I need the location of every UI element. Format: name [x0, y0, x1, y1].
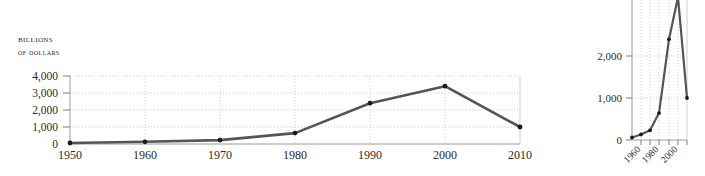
- thumbnail-y-ticks: [626, 56, 632, 140]
- y-tick-label: 1,000: [32, 121, 58, 134]
- main-grid-horizontal: [70, 76, 520, 127]
- thumbnail-line-chart: 2,000 1,000 0 1960 1980 2000: [590, 0, 705, 176]
- thumbnail-x-tick-label: 1980: [640, 144, 661, 165]
- data-point-marker: [443, 84, 448, 89]
- y-tick-label: 4,000: [32, 70, 58, 83]
- x-tick-label: 1990: [358, 148, 382, 162]
- data-point-marker: [667, 37, 671, 41]
- thumbnail-x-tick-label: 2000: [659, 144, 680, 165]
- x-tick-label: 2010: [508, 148, 532, 162]
- main-line-chart: Billions of dollars: [0, 0, 570, 176]
- thumbnail-data-line: [632, 0, 687, 138]
- data-point-marker: [293, 131, 298, 136]
- thumbnail-x-tick-label: 1960: [622, 144, 643, 165]
- thumbnail-data-markers: [630, 37, 689, 139]
- data-point-marker: [518, 125, 523, 130]
- main-plot-area: 4,000 3,000 2,000 1,000 0 1950 1960 1970…: [0, 0, 570, 176]
- data-point-marker: [685, 96, 689, 100]
- data-point-marker: [648, 128, 652, 132]
- y-tick-label: 3,000: [32, 87, 58, 100]
- thumbnail-grid-horizontal: [632, 56, 687, 98]
- main-y-ticks: [63, 76, 70, 127]
- x-tick-label: 1970: [208, 148, 232, 162]
- data-point-marker: [630, 136, 634, 140]
- thumbnail-x-ticks: [641, 140, 687, 145]
- thumbnail-plot-area: 2,000 1,000 0 1960 1980 2000: [590, 0, 705, 176]
- x-tick-label: 1960: [133, 148, 157, 162]
- data-point-marker: [368, 101, 373, 106]
- data-point-marker: [218, 138, 223, 143]
- thumbnail-y-tick-label: 0: [617, 134, 623, 146]
- data-point-marker: [68, 141, 73, 146]
- thumbnail-y-tick-label: 1,000: [597, 92, 622, 104]
- x-tick-label: 2000: [433, 148, 457, 162]
- thumbnail-y-tick-label: 2,000: [597, 50, 622, 62]
- x-tick-label: 1950: [58, 148, 82, 162]
- data-point-marker: [639, 133, 643, 137]
- y-tick-label: 2,000: [32, 104, 58, 117]
- data-point-marker: [657, 111, 661, 115]
- data-point-marker: [143, 139, 148, 144]
- x-tick-label: 1980: [283, 148, 307, 162]
